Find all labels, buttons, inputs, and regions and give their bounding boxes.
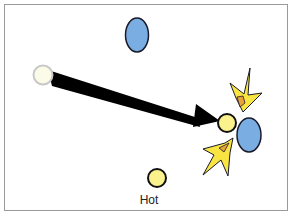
blue-particle-top xyxy=(126,18,149,52)
yellow-particle-collision xyxy=(218,114,236,132)
collision-burst-bottom xyxy=(203,138,233,176)
collision-burst-top xyxy=(230,68,262,112)
blue-particle-right xyxy=(237,118,261,152)
motion-arrow xyxy=(48,70,220,127)
collision-diagram xyxy=(0,0,295,217)
faded-start-particle xyxy=(34,66,53,85)
yellow-particle-hot xyxy=(148,169,166,187)
hot-label: Hot xyxy=(137,193,161,207)
